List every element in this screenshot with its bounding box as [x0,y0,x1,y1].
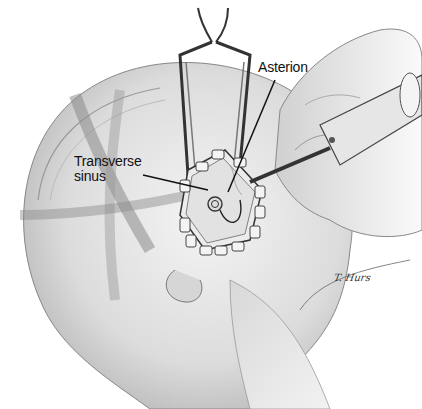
label-asterion: Asterion [258,60,308,75]
artist-signature: T. Hurs [333,272,372,283]
label-transverse-sinus-line-2: sinus [74,169,154,184]
label-transverse-sinus: Transverse sinus [74,154,154,184]
surgical-illustration [0,0,422,409]
label-transverse-sinus-line-1: Transverse [74,154,154,169]
